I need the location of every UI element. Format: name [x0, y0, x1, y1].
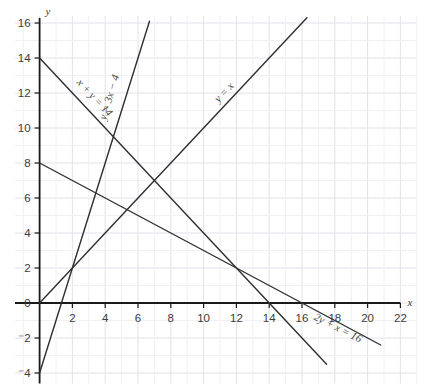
x-tick-label: 8: [168, 312, 174, 324]
x-tick-label: 4: [102, 312, 109, 324]
line-equation-labels: x + y = 14y = 3x − 4y = x2y + x = 16: [74, 73, 365, 345]
y-tick-label: 14: [18, 52, 31, 64]
y-tick-label: 0: [24, 297, 30, 309]
graph-container: 246810121416182022⁻4⁻20246810121416 x + …: [0, 0, 427, 386]
plot-line: [40, 18, 307, 303]
x-tick-label: 12: [230, 312, 243, 324]
y-tick-label: 6: [24, 192, 30, 204]
x-tick-label: 14: [263, 312, 276, 324]
grid: [15, 16, 417, 384]
y-tick-label: 8: [24, 157, 30, 169]
x-tick-label: 6: [135, 312, 141, 324]
axis-name-labels: yx: [45, 5, 413, 308]
y-axis-name: y: [45, 5, 51, 17]
x-tick-label: 10: [197, 312, 210, 324]
y-tick-label: 12: [18, 87, 31, 99]
x-tick-label: 2: [69, 312, 75, 324]
y-tick-label: ⁻4: [18, 367, 31, 379]
y-tick-label: 4: [24, 227, 31, 239]
x-tick-label: 16: [296, 312, 309, 324]
plot-line: [40, 58, 327, 364]
x-tick-label: 20: [361, 312, 374, 324]
x-tick-label: 22: [394, 312, 407, 324]
coordinate-plane: 246810121416182022⁻4⁻20246810121416 x + …: [0, 0, 427, 386]
x-axis-name: x: [406, 296, 412, 308]
y-tick-label: 2: [24, 262, 30, 274]
y-tick-label: 10: [18, 122, 31, 134]
y-tick-label: ⁻2: [18, 332, 30, 344]
y-tick-label: 16: [18, 17, 31, 29]
line-equation-label: y = x: [211, 80, 236, 106]
